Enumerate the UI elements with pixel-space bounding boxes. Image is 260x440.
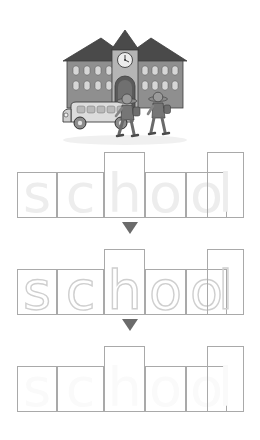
letter-glyph: s: [23, 269, 51, 314]
letter-glyph: h: [107, 268, 141, 314]
triangle-down-icon: [122, 319, 138, 331]
letter-glyph: l: [218, 268, 233, 314]
triangle-down-icon: [122, 222, 138, 234]
letter-glyph: c: [66, 172, 96, 217]
letter-glyph: o: [149, 366, 182, 411]
letter-box-3[interactable]: h: [104, 249, 145, 315]
letter-box-4[interactable]: o: [145, 269, 186, 315]
letter-box-6[interactable]: l: [207, 346, 244, 412]
letter-glyph: s: [23, 172, 51, 217]
letter-glyph: s: [23, 366, 51, 411]
letter-box-1[interactable]: s: [17, 366, 57, 412]
letter-box-1[interactable]: s: [17, 269, 57, 315]
letter-box-3[interactable]: h: [104, 152, 145, 218]
letter-box-4[interactable]: o: [145, 172, 186, 218]
letter-glyph: l: [218, 365, 233, 411]
flow-arrow-1: [0, 220, 260, 236]
letter-box-4[interactable]: o: [145, 366, 186, 412]
letter-glyph: h: [107, 365, 141, 411]
word-row-blank: s c h o o l: [17, 340, 244, 412]
word-row-dotted: s c h o o l: [17, 243, 244, 315]
letter-box-2[interactable]: c: [57, 269, 104, 315]
letter-glyph: o: [149, 269, 182, 314]
letter-box-2[interactable]: c: [57, 172, 104, 218]
flow-arrow-2: [0, 317, 260, 333]
backpack: [164, 105, 171, 114]
backpack: [133, 107, 140, 116]
school-illustration: [55, 28, 195, 146]
letter-glyph: c: [66, 366, 96, 411]
word-row-faded: s c h o o l: [17, 146, 244, 218]
letter-box-2[interactable]: c: [57, 366, 104, 412]
letter-box-3[interactable]: h: [104, 346, 145, 412]
building-left-wing: [63, 38, 115, 108]
worksheet-page: s c h o o l s c h o o l s c h o o l: [0, 0, 260, 440]
letter-box-6[interactable]: l: [207, 152, 244, 218]
letter-glyph: o: [149, 172, 182, 217]
child-walking-2: [148, 92, 171, 134]
letter-box-1[interactable]: s: [17, 172, 57, 218]
letter-glyph: l: [218, 171, 233, 217]
letter-glyph: c: [66, 269, 96, 314]
letter-box-6[interactable]: l: [207, 249, 244, 315]
ground-shadow: [63, 135, 187, 145]
letter-glyph: h: [107, 171, 141, 217]
